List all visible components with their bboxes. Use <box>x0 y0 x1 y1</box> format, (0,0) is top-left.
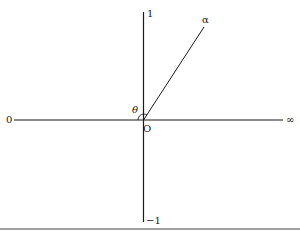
label-angle-theta: θ <box>132 105 138 115</box>
diagram-canvas <box>0 0 300 236</box>
label-origin: O <box>143 124 151 134</box>
label-right-infinity: ∞ <box>286 115 294 125</box>
label-bottom-minus-one: −1 <box>146 216 161 226</box>
label-ray-alpha: α <box>202 15 209 25</box>
label-top-one: 1 <box>147 9 153 19</box>
ray-alpha <box>144 27 205 120</box>
label-left-zero: 0 <box>6 115 12 125</box>
